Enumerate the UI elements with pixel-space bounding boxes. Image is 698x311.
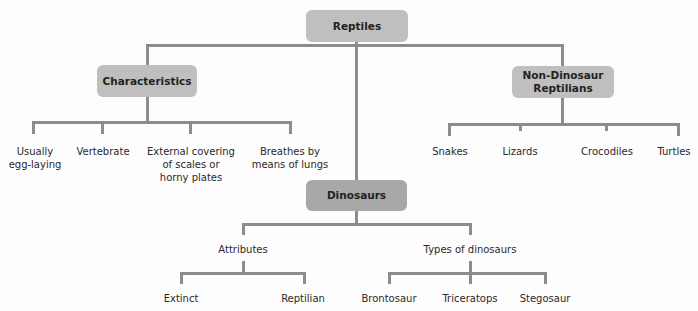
connector [388, 272, 391, 284]
leaf-snakes: Snakes [420, 145, 480, 158]
connector [180, 272, 183, 284]
node-dinosaurs: Dinosaurs [306, 180, 407, 211]
connector [242, 223, 245, 235]
leaf-vertebrate: Vertebrate [68, 145, 138, 158]
connector [677, 123, 680, 136]
connector [189, 121, 192, 134]
connector [146, 44, 149, 66]
connector [561, 98, 564, 124]
leaf-usually-egg-laying: Usually egg-laying [2, 145, 68, 171]
connector [101, 121, 104, 134]
leaf-extinct: Extinct [155, 292, 207, 305]
leaf-lizards: Lizards [490, 145, 550, 158]
connector [180, 272, 306, 275]
node-label: Reptiles [333, 20, 381, 33]
connector [303, 272, 306, 284]
connector [448, 123, 451, 136]
node-label: Non-Dinosaur Reptilians [523, 69, 604, 95]
connector [605, 123, 608, 131]
leaf-breathes-by-lungs: Breathes by means of lungs [245, 145, 335, 171]
connector [561, 44, 564, 66]
connector [519, 123, 522, 131]
reptiles-concept-map: Reptiles Characteristics Usually egg-lay… [0, 0, 698, 311]
node-characteristics: Characteristics [97, 65, 197, 97]
leaf-turtles: Turtles [650, 145, 698, 158]
connector [242, 223, 472, 226]
connector [448, 123, 680, 126]
leaf-external-covering: External covering of scales or horny pla… [143, 145, 239, 184]
connector [32, 121, 35, 134]
node-attributes: Attributes [202, 243, 284, 256]
connector [289, 121, 292, 134]
connector [469, 223, 472, 235]
leaf-stegosaur: Stegosaur [512, 292, 578, 305]
leaf-brontosaur: Brontosaur [356, 292, 422, 305]
node-reptiles: Reptiles [306, 10, 408, 42]
leaf-crocodiles: Crocodiles [572, 145, 642, 158]
node-non-dinosaur-reptilians: Non-Dinosaur Reptilians [512, 66, 614, 98]
connector [32, 121, 292, 124]
node-label: Dinosaurs [327, 189, 386, 202]
leaf-reptilian: Reptilian [272, 292, 334, 305]
leaf-triceratops: Triceratops [435, 292, 505, 305]
connector [146, 97, 149, 122]
connector [544, 272, 547, 284]
connector [388, 272, 547, 275]
node-label: Characteristics [102, 75, 191, 88]
connector [355, 40, 358, 182]
node-types-of-dinosaurs: Types of dinosaurs [414, 243, 526, 256]
connector [469, 272, 472, 284]
